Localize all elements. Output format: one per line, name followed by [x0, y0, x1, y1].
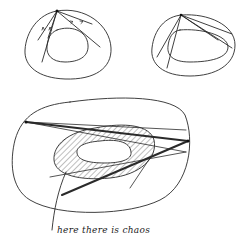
bottom-diagram — [12, 98, 189, 230]
top-left-diagram — [25, 10, 111, 80]
diagram-canvas — [0, 0, 244, 242]
top-right-diagram — [152, 14, 235, 76]
caption-text: here there is chaos — [57, 225, 150, 235]
